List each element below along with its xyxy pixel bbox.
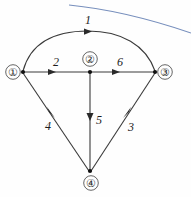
edge-label-5: 5 bbox=[96, 113, 102, 127]
diagram-canvas: ① ② ③ ④ 1 2 6 4 5 3 bbox=[0, 0, 191, 197]
arrowhead-edge-5 bbox=[87, 113, 94, 121]
node-label-1: ① bbox=[8, 66, 18, 78]
vertex-dot-node-1 bbox=[21, 70, 25, 74]
edge-label-2: 2 bbox=[53, 55, 59, 69]
graph-svg: ① ② ③ ④ 1 2 6 4 5 3 bbox=[0, 0, 191, 197]
node-label-4: ④ bbox=[86, 177, 96, 189]
arrowhead-edge-2 bbox=[48, 69, 56, 75]
edge-line-1-to-4 bbox=[23, 73, 89, 171]
edge-label-6: 6 bbox=[117, 55, 123, 69]
arrowhead-edge-4 bbox=[47, 107, 55, 118]
node-label-2: ② bbox=[85, 53, 95, 65]
vertex-dot-node-4 bbox=[88, 169, 92, 173]
vertex-dot-node-3 bbox=[153, 70, 157, 74]
arrowhead-edge-6 bbox=[112, 69, 120, 75]
node-label-3: ③ bbox=[160, 66, 170, 78]
edge-label-1: 1 bbox=[85, 13, 91, 27]
edge-arc-1-to-3 bbox=[23, 31, 155, 71]
edge-label-4: 4 bbox=[45, 119, 51, 133]
vertex-dot-node-2 bbox=[88, 70, 92, 74]
edge-label-3: 3 bbox=[127, 120, 134, 134]
arrowhead-edge-1 bbox=[84, 29, 92, 35]
